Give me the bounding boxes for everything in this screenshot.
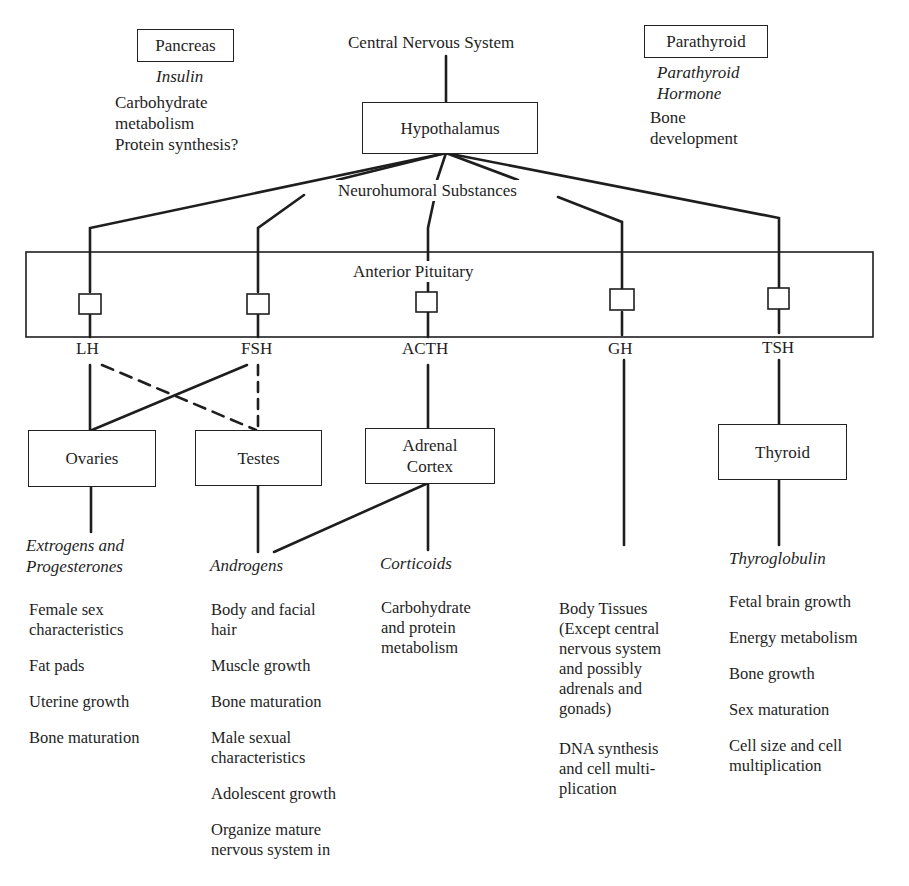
testes-box: Testes [195, 430, 322, 486]
ovaries-effects-list: Female sex characteristics Fat pads Uter… [29, 600, 139, 764]
adrenal-cortex-box: Adrenal Cortex [365, 428, 495, 484]
parathyroid-effects: Bone development [650, 107, 738, 149]
hormone-fsh: FSH [241, 338, 272, 359]
effect-item: Muscle growth [211, 656, 336, 676]
thyroid-product: Thyroglobulin [729, 548, 826, 569]
parathyroid-box: Parathyroid [644, 25, 768, 58]
thyroid-box: Thyroid [718, 424, 847, 480]
hormone-lh: LH [76, 338, 99, 359]
cns-label: Central Nervous System [348, 32, 514, 53]
testes-label: Testes [237, 448, 279, 469]
insulin-label: Insulin [156, 66, 203, 87]
effect-item: Bone maturation [29, 728, 139, 748]
neurohumoral-label: Neurohumoral Substances [335, 180, 520, 201]
pancreas-label: Pancreas [155, 35, 215, 56]
effect-item: Female sex characteristics [29, 600, 139, 640]
pancreas-effects: Carbohydrate metabolism Protein synthesi… [115, 92, 238, 155]
hormone-acth: ACTH [402, 338, 448, 359]
effect-item: Bone maturation [211, 692, 336, 712]
hypothalamus-label: Hypothalamus [400, 118, 499, 139]
effect-item: Sex maturation [729, 700, 857, 720]
ovaries-product: Extrogens and Progesterones [26, 535, 124, 577]
hormone-tsh: TSH [762, 337, 794, 358]
thyroid-label: Thyroid [755, 442, 810, 463]
adrenal-cortex-label: Adrenal Cortex [403, 435, 458, 477]
ovaries-box: Ovaries [28, 430, 156, 487]
adrenal-product: Corticoids [380, 553, 452, 574]
adrenal-effects-list: Carbohydrate and protein metabolism [381, 598, 471, 674]
pancreas-box: Pancreas [137, 29, 234, 62]
hormone-gh: GH [608, 338, 633, 359]
effect-item: Fetal brain growth [729, 592, 857, 612]
hypothalamus-box: Hypothalamus [362, 102, 538, 154]
thyroid-effects-list: Fetal brain growth Energy metabolism Bon… [729, 592, 857, 792]
effect-item: Organize mature nervous system in [211, 820, 336, 860]
effect-item: Body Tissues (Except central nervous sys… [559, 599, 661, 719]
parathyroid-label: Parathyroid [666, 31, 745, 52]
anterior-pituitary-label: Anterior Pituitary [351, 261, 475, 282]
gh-effects-list: Body Tissues (Except central nervous sys… [559, 599, 661, 815]
parathyroid-hormone-label: Parathyroid Hormone [657, 62, 739, 104]
effect-item: Cell size and cell multiplication [729, 736, 857, 776]
ovaries-label: Ovaries [66, 448, 119, 469]
effect-item: Uterine growth [29, 692, 139, 712]
effect-item: Adolescent growth [211, 784, 336, 804]
effect-item: Bone growth [729, 664, 857, 684]
effect-item: Male sexual characteristics [211, 728, 336, 768]
effect-item: Carbohydrate and protein metabolism [381, 598, 471, 658]
effect-item: Fat pads [29, 656, 139, 676]
effect-item: Energy metabolism [729, 628, 857, 648]
testes-effects-list: Body and facial hair Muscle growth Bone … [211, 600, 336, 876]
effect-item: DNA synthesis and cell multi- plication [559, 739, 661, 799]
testes-product: Androgens [210, 555, 283, 576]
effect-item: Body and facial hair [211, 600, 336, 640]
